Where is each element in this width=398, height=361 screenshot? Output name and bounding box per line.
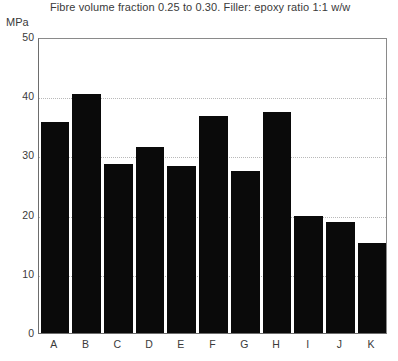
bar-e: [167, 166, 196, 333]
bar-h: [263, 112, 292, 333]
bar-a: [41, 122, 70, 333]
bar-j: [326, 222, 355, 333]
y-tick-label: 0: [0, 328, 34, 339]
bar-f: [199, 116, 228, 333]
y-axis-unit-label: MPa: [6, 16, 29, 29]
x-tick-label-k: K: [355, 338, 387, 351]
bar-b: [72, 94, 101, 333]
bar-c: [104, 164, 133, 333]
y-tick-label: 30: [0, 150, 34, 161]
x-tick-label-g: G: [228, 338, 260, 351]
bar-g: [231, 171, 260, 333]
x-tick-label-i: I: [292, 338, 324, 351]
chart-title: Fibre volume fraction 0.25 to 0.30. Fill…: [50, 0, 350, 14]
y-tick-label: 20: [0, 210, 34, 221]
x-tick-label-j: J: [324, 338, 356, 351]
y-axis-tick-labels: 01020304050: [0, 38, 34, 334]
plot-area: [38, 38, 387, 334]
bar-d: [136, 147, 165, 333]
bar-i: [294, 216, 323, 333]
x-axis-tick-labels: ABCDEFGHIJK: [38, 338, 387, 358]
x-tick-label-f: F: [197, 338, 229, 351]
x-tick-label-c: C: [101, 338, 133, 351]
bar-chart-figure: Fibre volume fraction 0.25 to 0.30. Fill…: [0, 0, 398, 361]
x-tick-label-d: D: [133, 338, 165, 351]
y-tick-label: 40: [0, 91, 34, 102]
y-tick-label: 50: [0, 32, 34, 43]
x-tick-label-e: E: [165, 338, 197, 351]
x-tick-label-h: H: [260, 338, 292, 351]
x-tick-label-a: A: [38, 338, 70, 351]
bar-k: [358, 243, 387, 333]
x-tick-label-b: B: [70, 338, 102, 351]
y-tick-label: 10: [0, 269, 34, 280]
bars-layer: [39, 39, 386, 333]
